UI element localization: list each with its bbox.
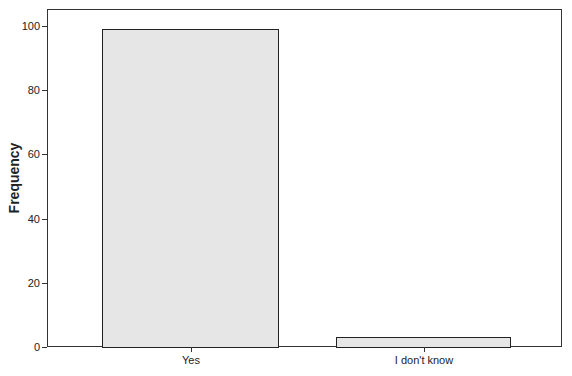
y-tick bbox=[42, 347, 47, 348]
y-tick-label: 0 bbox=[34, 341, 40, 353]
y-tick bbox=[42, 219, 47, 220]
y-tick bbox=[42, 154, 47, 155]
y-tick-label: 100 bbox=[22, 20, 40, 32]
y-tick-label: 80 bbox=[28, 84, 40, 96]
y-tick bbox=[42, 90, 47, 91]
y-tick bbox=[42, 26, 47, 27]
y-tick-label: 60 bbox=[28, 148, 40, 160]
y-tick-label: 40 bbox=[28, 213, 40, 225]
y-tick-label: 20 bbox=[28, 277, 40, 289]
x-tick bbox=[191, 347, 192, 352]
bar bbox=[102, 29, 279, 348]
x-tick bbox=[424, 347, 425, 352]
y-axis-title: Frequency bbox=[6, 143, 22, 214]
x-tick-label: I don't know bbox=[395, 354, 453, 366]
y-tick bbox=[42, 283, 47, 284]
x-tick-label: Yes bbox=[182, 354, 200, 366]
